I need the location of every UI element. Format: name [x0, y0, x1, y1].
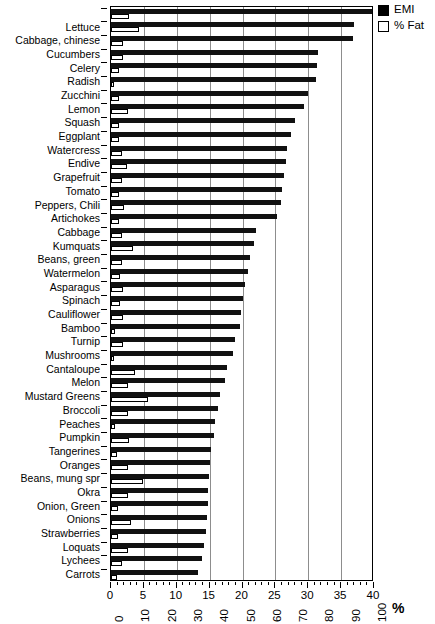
- filled-square-icon: [378, 5, 389, 16]
- bar-row: [111, 212, 372, 226]
- bar-row: [111, 199, 372, 213]
- bar-emi: [111, 501, 208, 506]
- bar-row: [111, 472, 372, 486]
- x-tick-minor: [294, 582, 295, 585]
- category-label: Lemon: [68, 104, 100, 114]
- y-axis-tick: [101, 569, 107, 570]
- y-axis-tick: [101, 405, 107, 406]
- x-axis-emi-labels: 0510152025303540: [110, 590, 373, 604]
- bar-emi: [111, 214, 277, 219]
- category-label: Lychees: [61, 555, 100, 565]
- bar-fat: [111, 493, 128, 498]
- x-tick-major: [307, 582, 308, 588]
- x-tick-label-emi: 10: [169, 590, 182, 601]
- category-label: Celery: [70, 63, 100, 73]
- y-axis-tick: [101, 186, 107, 187]
- bar-fat: [111, 14, 129, 19]
- y-axis-tick: [101, 542, 107, 543]
- bar-fat: [111, 164, 127, 169]
- y-axis-tick: [101, 158, 107, 159]
- bar-emi: [111, 63, 317, 68]
- bar-row: [111, 240, 372, 254]
- x-tick-minor: [320, 582, 321, 585]
- bar-fat: [111, 520, 131, 525]
- bar-fat: [111, 178, 122, 183]
- bar-row: [111, 418, 372, 432]
- x-tick-minor: [347, 582, 348, 585]
- category-label: Bamboo: [61, 323, 100, 333]
- bar-fat: [111, 342, 123, 347]
- bar-row: [111, 226, 372, 240]
- bar-row: [111, 89, 372, 103]
- water-content-bar-chart: Water Content per Unit Weight (partially…: [0, 0, 435, 624]
- bar-fat: [111, 329, 115, 334]
- legend-entry-emi: EMI: [378, 2, 435, 18]
- bar-emi: [111, 91, 308, 96]
- x-tick-minor: [366, 582, 367, 585]
- category-label: Cabbage: [57, 227, 100, 237]
- y-axis-tick: [101, 131, 107, 132]
- bar-row: [111, 527, 372, 541]
- y-axis-tick: [101, 35, 107, 36]
- legend-entry-fat: % Fat: [378, 18, 435, 34]
- bar-row: [111, 555, 372, 569]
- bar-fat: [111, 424, 115, 429]
- bar-emi: [111, 159, 286, 164]
- y-axis-tick: [101, 240, 107, 241]
- legend-label-emi: EMI: [394, 4, 414, 16]
- bar-row: [111, 171, 372, 185]
- category-label: Squash: [64, 117, 100, 127]
- y-axis-tick: [101, 501, 107, 502]
- bar-fat: [111, 109, 128, 114]
- bar-fat: [111, 246, 133, 251]
- category-label: Peppers, Chili: [35, 200, 100, 210]
- bar-fat: [111, 397, 148, 402]
- bar-fat: [111, 55, 123, 60]
- x-tick-label-fat: 60: [272, 609, 283, 622]
- x-tick-label-emi: 5: [140, 590, 146, 601]
- x-tick-minor: [261, 582, 262, 585]
- bar-fat: [111, 260, 122, 265]
- category-label: Onion, Green: [37, 501, 100, 511]
- y-axis-tick: [101, 350, 107, 351]
- x-tick-label-fat: 50: [246, 609, 257, 622]
- x-tick-minor: [360, 582, 361, 585]
- y-axis-tick: [101, 446, 107, 447]
- bar-fat: [111, 274, 120, 279]
- bar-fat: [111, 356, 114, 361]
- bar-row: [111, 404, 372, 418]
- x-tick-label-emi: 25: [268, 590, 281, 601]
- bar-row: [111, 21, 372, 35]
- bar-emi: [111, 200, 281, 205]
- y-axis-tick: [101, 49, 107, 50]
- x-tick-minor: [235, 582, 236, 585]
- bar-fat: [111, 137, 119, 142]
- bar-fat: [111, 219, 119, 224]
- bar-row: [111, 103, 372, 117]
- y-axis-tick: [101, 254, 107, 255]
- x-tick-minor: [123, 582, 124, 585]
- y-axis-tick: [101, 295, 107, 296]
- bar-emi: [111, 351, 233, 356]
- bar-rows: [111, 7, 372, 580]
- bar-fat: [111, 233, 122, 238]
- category-label: Kumquats: [53, 241, 100, 251]
- bar-emi: [111, 36, 353, 41]
- bar-row: [111, 281, 372, 295]
- category-label: Tomato: [66, 186, 100, 196]
- x-tick-minor: [149, 582, 150, 585]
- bar-emi: [111, 50, 318, 55]
- y-axis-tick: [101, 117, 107, 118]
- category-label: Beans, mung spr: [21, 473, 100, 483]
- bar-emi: [111, 310, 241, 315]
- bar-emi: [111, 556, 202, 561]
- bar-fat: [111, 383, 128, 388]
- category-label: Mushrooms: [45, 350, 100, 360]
- bar-row: [111, 363, 372, 377]
- y-axis-tick: [101, 418, 107, 419]
- x-tick-minor: [281, 582, 282, 585]
- bar-row: [111, 377, 372, 391]
- y-axis-tick: [101, 268, 107, 269]
- x-tick-major: [176, 582, 177, 588]
- bar-fat: [111, 534, 118, 539]
